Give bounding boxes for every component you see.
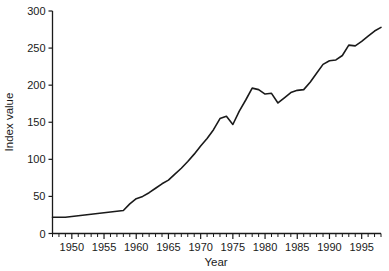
y-tick-label: 300 xyxy=(27,5,45,17)
x-axis-ticks xyxy=(72,234,362,240)
x-tick-label: 1985 xyxy=(285,241,309,253)
x-tick-label: 1990 xyxy=(317,241,341,253)
x-tick-label: 1960 xyxy=(124,241,148,253)
line-chart-svg: 050100150200250300 195019551960196519701… xyxy=(0,0,389,271)
x-tick-label: 1970 xyxy=(188,241,212,253)
y-tick-label: 150 xyxy=(27,116,45,128)
y-axis-title: Index value xyxy=(3,93,15,152)
x-tick-label: 1965 xyxy=(156,241,180,253)
x-axis-title: Year xyxy=(204,256,227,268)
y-tick-label: 50 xyxy=(33,190,45,202)
axes xyxy=(52,11,381,234)
y-tick-label: 200 xyxy=(27,79,45,91)
y-axis-tick-labels: 050100150200250300 xyxy=(27,5,45,240)
x-tick-label: 1950 xyxy=(60,241,84,253)
x-tick-label: 1995 xyxy=(349,241,373,253)
data-series-line xyxy=(53,27,382,217)
x-tick-label: 1980 xyxy=(253,241,277,253)
x-axis-tick-labels: 1950195519601965197019751980198519901995 xyxy=(60,241,374,253)
y-tick-label: 0 xyxy=(39,228,45,240)
y-tick-label: 250 xyxy=(27,42,45,54)
x-tick-label: 1975 xyxy=(221,241,245,253)
x-tick-label: 1955 xyxy=(92,241,116,253)
chart-figure: 050100150200250300 195019551960196519701… xyxy=(0,0,389,271)
y-tick-label: 100 xyxy=(27,153,45,165)
